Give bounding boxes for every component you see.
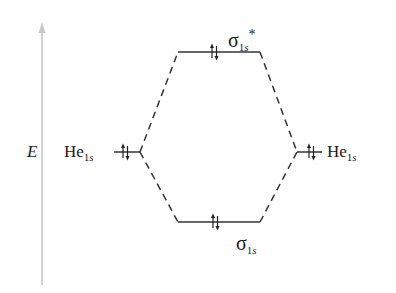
orbital-letter: s xyxy=(352,151,356,163)
orbital-letter: s xyxy=(89,151,93,163)
sigma-star-1s-label: σ1s* xyxy=(228,30,256,50)
antibonding-star: * xyxy=(249,27,256,42)
axis-arrowhead-icon xyxy=(39,22,46,33)
correlation-lines xyxy=(140,52,297,222)
left-to-bonding-line xyxy=(140,152,178,222)
antibonding-to-right-line xyxy=(260,52,297,152)
right-he-1s-label: He1s xyxy=(327,143,357,160)
right-he-1s-level xyxy=(297,144,322,161)
energy-axis xyxy=(39,22,46,285)
orbital-letter: s xyxy=(252,244,256,256)
sigma-symbol: σ xyxy=(236,232,247,254)
energy-axis-label: E xyxy=(27,143,37,160)
sigma-1s-level xyxy=(178,214,260,231)
element-symbol: He xyxy=(64,142,84,161)
left-he-1s-level xyxy=(114,144,140,161)
mo-diagram: E He1s He1s σ1s* σ1s xyxy=(0,0,396,293)
left-he-1s-label: He1s xyxy=(64,143,94,160)
bonding-to-right-line xyxy=(260,152,297,222)
sigma-1s-label: σ1s xyxy=(236,233,257,253)
orbital-letter: s xyxy=(244,41,248,53)
sigma-symbol: σ xyxy=(228,29,239,51)
element-symbol: He xyxy=(327,142,347,161)
left-to-antibonding-line xyxy=(140,52,178,152)
